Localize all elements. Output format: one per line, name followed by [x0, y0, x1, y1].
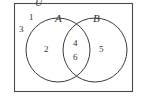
- venn-diagram-graphic: [0, 0, 146, 100]
- a-only-value-2: 2: [44, 45, 49, 54]
- set-a-label: A: [55, 13, 62, 24]
- venn-diagram-figure: U A B 1 3 2 4 6 5: [0, 0, 146, 100]
- b-only-value-5: 5: [99, 45, 104, 54]
- intersection-value-6: 6: [73, 53, 78, 62]
- set-b-label: B: [93, 13, 100, 24]
- outside-value-1: 1: [29, 13, 34, 22]
- intersection-value-4: 4: [73, 39, 78, 48]
- universal-set-label: U: [35, 0, 42, 8]
- outside-value-3: 3: [19, 25, 24, 34]
